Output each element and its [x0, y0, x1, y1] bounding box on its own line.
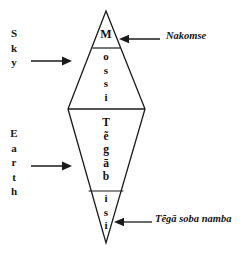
section-letter: i	[94, 91, 118, 105]
earth-arrow	[31, 162, 72, 171]
section-letter: i	[94, 192, 118, 206]
axis-label-earth-letter: t	[6, 170, 22, 185]
section-letter: ā	[94, 157, 118, 171]
section-letter: ẽ	[94, 130, 118, 144]
section-label-nakomse: M	[94, 28, 118, 42]
axis-label-earth-letter: a	[6, 141, 22, 156]
section-letter: s	[94, 206, 118, 220]
section-label-mossi: o s s i	[94, 50, 118, 104]
axis-label-earth-letter: E	[6, 126, 22, 141]
section-letter: s	[94, 77, 118, 91]
axis-label-sky-letter: S	[6, 26, 22, 41]
axis-label-earth-letter: h	[6, 184, 22, 199]
sky-arrow	[31, 57, 72, 66]
callout-nakomse: Nakomse	[166, 30, 206, 41]
section-label-tegabisi: T ẽ g ā b	[94, 116, 118, 184]
axis-label-sky: S k y	[6, 26, 22, 70]
section-letter-m: M	[94, 28, 118, 42]
section-letter: s	[94, 64, 118, 78]
tega-soba-arrow	[114, 218, 152, 226]
axis-label-earth: E a r t h	[6, 126, 22, 199]
section-letter: b	[94, 170, 118, 184]
axis-label-earth-letter: r	[6, 155, 22, 170]
section-letter: i	[94, 219, 118, 233]
section-letter: g	[94, 143, 118, 157]
section-label-tega-soba: i s i	[94, 192, 118, 233]
section-letter: T	[94, 116, 118, 130]
axis-label-sky-letter: y	[6, 55, 22, 70]
section-letter: o	[94, 50, 118, 64]
callout-tega-soba-namba: Tẽgā soba namba	[155, 213, 231, 224]
axis-label-sky-letter: k	[6, 41, 22, 56]
nakomse-arrow	[119, 35, 160, 43]
